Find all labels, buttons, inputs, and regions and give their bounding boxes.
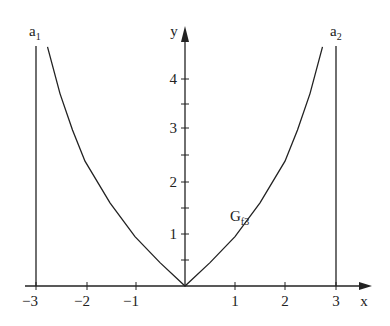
x-tick-label: 3 [332,293,340,309]
plot: −3 −2 −1 1 2 3 x 1 2 3 4 y a1 a2 Gf3 [0,0,390,326]
x-tick-label: −3 [22,293,38,309]
y-axis-label: y [170,23,178,39]
curve-label: Gf3 [230,208,249,227]
asymptote-a1-label: a1 [29,23,41,42]
asymptote-a2-label: a2 [330,23,342,42]
y-axis-arrow-icon [181,26,189,42]
x-tick-label: 1 [231,293,239,309]
x-axis-arrow-icon [359,282,372,290]
x-axis-label: x [360,293,368,309]
y-tick-label: 2 [170,174,178,190]
x-tick-label: 2 [281,293,289,309]
y-tick-label: 1 [170,226,178,242]
y-tick-label: 3 [170,120,178,136]
x-tick-label: −1 [123,293,139,309]
y-tick-label: 4 [170,71,178,87]
x-tick-label: −2 [74,293,90,309]
